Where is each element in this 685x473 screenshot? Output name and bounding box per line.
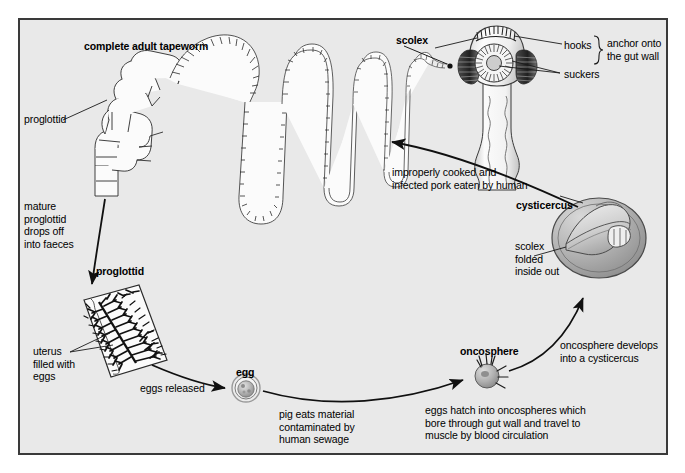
label-scolex-folded-inside-out: scolex folded inside out [515, 240, 559, 278]
label-proglottid-mid: proglottid [96, 265, 144, 278]
label-scolex: scolex [396, 34, 428, 47]
label-eggs-hatch-into-oncospheres: eggs hatch into oncospheres which bore t… [425, 404, 586, 442]
label-proglottid-top: proglottid [24, 113, 66, 126]
diagram-frame [18, 18, 668, 455]
label-mature-proglottid-drops-off: mature proglottid drops off into faeces [24, 200, 74, 250]
diagram-canvas: complete adult tapeworm proglottid matur… [0, 0, 685, 473]
label-improperly-cooked: improperly cooked and infected pork eate… [392, 166, 528, 191]
label-pig-eats-material: pig eats material contaminated by human … [279, 408, 355, 446]
label-anchor-onto-gut-wall: anchor onto the gut wall [607, 37, 661, 62]
label-cysticercus: cysticercus [516, 199, 573, 212]
label-uterus-filled-with-eggs: uterus filled with eggs [33, 345, 75, 383]
label-complete-adult-tapeworm: complete adult tapeworm [84, 40, 208, 53]
label-suckers: suckers [564, 68, 599, 81]
label-oncosphere: oncosphere [460, 345, 519, 358]
label-hooks: hooks [564, 39, 592, 52]
label-eggs-released: eggs released [140, 382, 205, 395]
label-egg: egg [236, 366, 254, 379]
label-oncosphere-develops: oncosphere develops into a cysticercus [560, 339, 658, 364]
